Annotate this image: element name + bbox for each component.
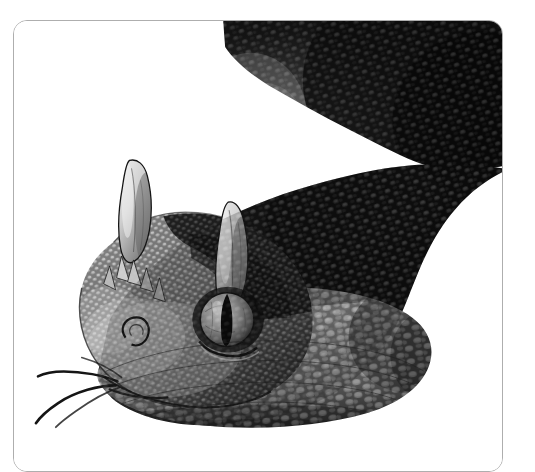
illustration-card: Horned bush viper head and coiled body B…: [13, 20, 503, 472]
snake-illustration: Horned bush viper head and coiled body B…: [14, 21, 502, 471]
figure-stage: Horned bush viper head and coiled body B…: [14, 21, 502, 471]
